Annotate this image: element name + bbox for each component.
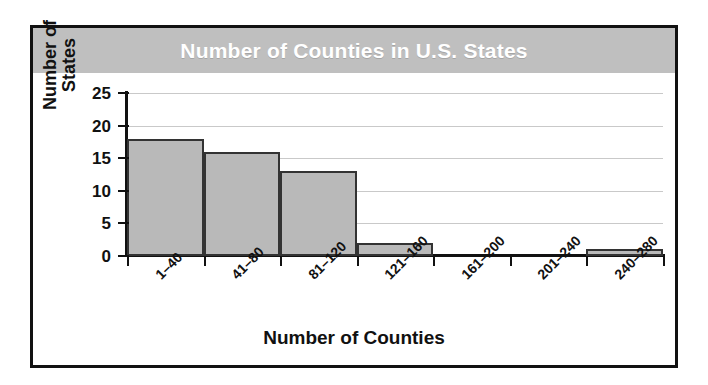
x-axis-tick	[586, 257, 588, 266]
x-axis-title: Number of Counties	[33, 327, 675, 349]
histogram-bar	[280, 171, 357, 256]
chart-title: Number of Counties in U.S. States	[180, 39, 527, 63]
y-axis-tick-label: 0	[77, 248, 111, 265]
y-axis-tick-label: 20	[77, 118, 111, 135]
y-axis-title: Number of States	[41, 0, 81, 140]
chart-title-banner: Number of Counties in U.S. States	[33, 28, 675, 73]
x-axis-tick	[280, 257, 282, 266]
y-axis-tick-label: 25	[77, 85, 111, 102]
y-axis-tick	[118, 125, 129, 127]
y-axis-title-line2: States	[60, 0, 79, 140]
plot-area	[127, 93, 663, 256]
y-axis-tick	[118, 222, 129, 224]
y-axis-tick-label: 10	[77, 183, 111, 200]
x-axis-tick	[663, 257, 665, 266]
x-axis-tick	[127, 257, 129, 266]
histogram-bar	[204, 152, 281, 256]
grid-line	[127, 126, 663, 127]
histogram-bar	[127, 139, 204, 256]
y-axis-tick	[118, 190, 129, 192]
y-axis-tick-label: 5	[77, 215, 111, 232]
y-axis-tick-label: 15	[77, 150, 111, 167]
y-axis-tick	[118, 92, 129, 94]
x-axis-tick	[204, 257, 206, 266]
x-axis-tick	[433, 257, 435, 266]
x-axis-tick	[357, 257, 359, 266]
y-axis-tick	[118, 157, 129, 159]
figure-frame: Number of Counties in U.S. States Number…	[30, 25, 678, 368]
y-axis-title-line1: Number of	[41, 0, 60, 140]
grid-line	[127, 93, 663, 94]
x-axis-tick	[510, 257, 512, 266]
